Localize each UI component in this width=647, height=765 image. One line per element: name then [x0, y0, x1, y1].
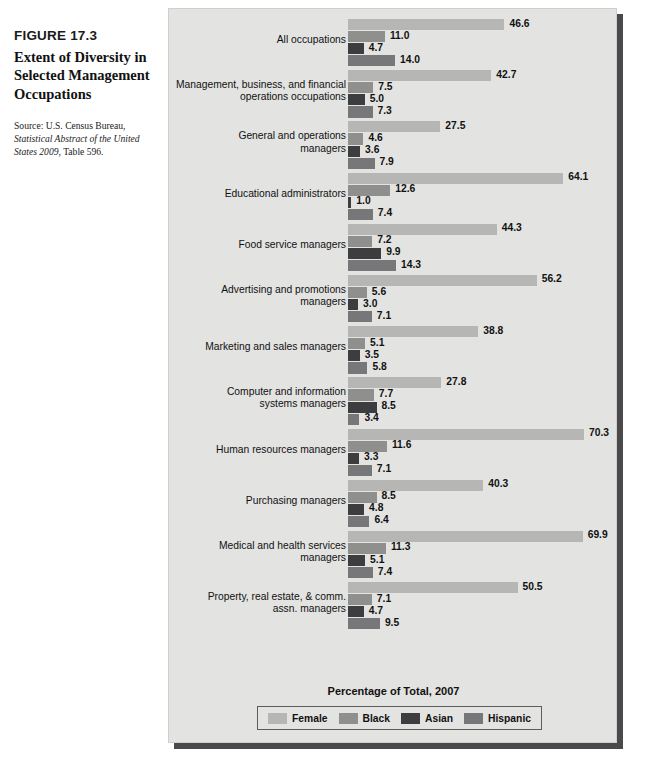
bar-asian [348, 299, 358, 310]
bar-row: 8.5 [348, 492, 618, 503]
bar-value-label: 7.1 [377, 310, 391, 321]
bar-value-label: 4.6 [368, 132, 382, 143]
bar-row: 7.1 [348, 594, 618, 605]
bar-row: 4.6 [348, 133, 618, 144]
bar-group: Educational administrators64.112.61.07.4 [169, 169, 618, 220]
bar-asian [348, 606, 364, 617]
bar-group: Property, real estate, & comm. assn. man… [169, 578, 618, 629]
bar-row: 42.7 [348, 70, 618, 81]
bar-value-label: 27.8 [446, 376, 466, 387]
bar-hispanic [348, 55, 395, 66]
category-label: Purchasing managers [148, 495, 346, 507]
bar-value-label: 69.9 [588, 529, 608, 540]
bar-row: 5.0 [348, 94, 618, 105]
bar-hispanic [348, 260, 396, 271]
bar-group: Food service managers44.37.29.914.3 [169, 220, 618, 271]
bar-female [348, 70, 491, 81]
legend-item[interactable]: Hispanic [464, 713, 531, 724]
figure-caption-block: FIGURE 17.3 Extent of Diversity in Selec… [14, 28, 152, 158]
bar-black [348, 31, 385, 42]
bar-hispanic [348, 209, 373, 220]
bar-group: Medical and health services managers69.9… [169, 527, 618, 578]
bar-value-label: 4.7 [369, 42, 383, 53]
bar-group: General and operations managers27.54.63.… [169, 117, 618, 168]
bar-group: Management, business, and financial oper… [169, 66, 618, 117]
category-label: Educational administrators [148, 188, 346, 200]
bar-female [348, 326, 478, 337]
bar-row: 46.6 [348, 19, 618, 30]
bar-hispanic [348, 465, 372, 476]
bar-value-label: 8.5 [382, 400, 396, 411]
bar-value-label: 5.6 [372, 286, 386, 297]
legend-item[interactable]: Asian [401, 713, 453, 724]
bar-female [348, 429, 584, 440]
bar-row: 8.5 [348, 402, 618, 413]
bar-asian [348, 94, 365, 105]
legend-label: Black [363, 713, 390, 724]
bar-row: 3.6 [348, 146, 618, 157]
bar-black [348, 543, 386, 554]
bar-group: All occupations46.611.04.714.0 [169, 15, 618, 66]
bar-value-label: 38.8 [483, 325, 503, 336]
bar-group: Advertising and promotions managers56.25… [169, 271, 618, 322]
bar-value-label: 7.9 [380, 156, 394, 167]
bar-black [348, 338, 365, 349]
bar-group: Marketing and sales managers38.85.13.55.… [169, 322, 618, 373]
bar-female [348, 582, 518, 593]
page-title: Extent of Diversity in Selected Manageme… [14, 48, 152, 104]
bar-row: 9.5 [348, 618, 618, 629]
bar-value-label: 3.3 [364, 451, 378, 462]
bar-female [348, 121, 440, 132]
bar-row: 50.5 [348, 582, 618, 593]
bar-value-label: 40.3 [488, 478, 508, 489]
figure-source: Source: U.S. Census Bureau, Statistical … [14, 119, 152, 158]
legend-item[interactable]: Black [339, 713, 390, 724]
plot-area: All occupations46.611.04.714.0Management… [169, 15, 618, 681]
bar-asian [348, 197, 351, 208]
bar-hispanic [348, 567, 373, 578]
bar-group: Computer and information systems manager… [169, 373, 618, 424]
bar-row: 5.1 [348, 338, 618, 349]
legend-item[interactable]: Female [268, 713, 328, 724]
bar-stack: 42.77.55.07.3 [348, 70, 618, 118]
bar-row: 12.6 [348, 185, 618, 196]
bar-female [348, 173, 563, 184]
legend-swatch-icon [464, 713, 483, 724]
bar-hispanic [348, 414, 359, 425]
legend-label: Asian [425, 713, 453, 724]
bar-row: 7.1 [348, 465, 618, 476]
bar-hispanic [348, 362, 367, 373]
bar-asian [348, 453, 359, 464]
bar-row: 3.5 [348, 350, 618, 361]
chart-legend: FemaleBlackAsianHispanic [257, 706, 542, 730]
bar-row: 4.7 [348, 43, 618, 54]
bar-row: 27.8 [348, 377, 618, 388]
bar-row: 7.3 [348, 106, 618, 117]
bar-value-label: 8.5 [382, 490, 396, 501]
bar-value-label: 7.3 [378, 105, 392, 116]
bar-value-label: 7.7 [379, 388, 393, 399]
bar-black [348, 594, 372, 605]
bar-stack: 38.85.13.55.8 [348, 326, 618, 374]
bar-value-label: 7.2 [377, 234, 391, 245]
bar-value-label: 11.3 [391, 541, 410, 552]
bar-row: 27.5 [348, 121, 618, 132]
bar-row: 9.9 [348, 248, 618, 259]
bar-value-label: 14.0 [400, 54, 420, 65]
bar-row: 7.2 [348, 236, 618, 247]
bar-hispanic [348, 618, 380, 629]
bar-value-label: 4.7 [369, 605, 383, 616]
bar-value-label: 7.4 [378, 566, 392, 577]
bar-stack: 56.25.63.07.1 [348, 275, 618, 323]
bar-asian [348, 43, 364, 54]
bar-black [348, 236, 372, 247]
bar-hispanic [348, 311, 372, 322]
bar-black [348, 82, 373, 93]
bar-value-label: 42.7 [496, 69, 516, 80]
bar-stack: 64.112.61.07.4 [348, 173, 618, 221]
bar-row: 7.9 [348, 158, 618, 169]
source-suffix: , Table 596. [59, 146, 104, 157]
bar-female [348, 480, 483, 491]
bar-value-label: 11.6 [392, 439, 411, 450]
bar-value-label: 14.3 [401, 259, 421, 270]
